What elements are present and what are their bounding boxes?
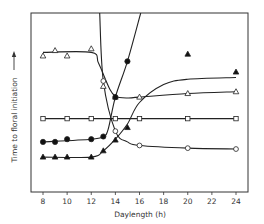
- open-circles-curve: [100, 13, 236, 149]
- open-circles-marker: [137, 143, 142, 148]
- open-triangles-marker: [233, 89, 239, 94]
- x-tick-label: 18: [159, 197, 169, 206]
- closed-circles-marker: [52, 139, 57, 144]
- x-axis-ticks: 81012141618202224: [41, 192, 241, 206]
- closed-triangles-marker: [52, 154, 58, 159]
- closed-circles-marker: [113, 95, 118, 100]
- y-axis-title: Time to floral initiation: [10, 77, 19, 163]
- x-tick-label: 24: [231, 197, 241, 206]
- open-circles-marker: [234, 147, 239, 152]
- open-circles-marker: [113, 129, 118, 134]
- open-triangles-marker: [64, 53, 70, 58]
- open-triangles-marker: [52, 48, 58, 53]
- closed-circles-marker: [89, 137, 94, 142]
- x-tick-label: 20: [183, 197, 193, 206]
- closed-circles-curve: [43, 13, 141, 142]
- open-squares-marker: [113, 116, 117, 120]
- x-tick-label: 8: [41, 197, 46, 206]
- closed-circles-marker: [101, 134, 106, 139]
- open-circles-marker: [185, 146, 190, 151]
- open-triangles-marker: [40, 53, 46, 58]
- open-triangles-marker: [88, 46, 94, 51]
- x-tick-label: 22: [207, 197, 217, 206]
- y-axis-title-group: Time to floral initiation: [10, 77, 19, 163]
- open-squares-marker: [41, 116, 45, 120]
- closed-circles-marker: [125, 59, 130, 64]
- closed-triangles-marker: [113, 137, 119, 142]
- series-curves: [43, 13, 236, 158]
- open-squares-marker: [234, 116, 238, 120]
- closed-triangles-marker: [185, 51, 191, 56]
- open-triangles-curve: [43, 52, 236, 98]
- x-tick-label: 12: [86, 197, 96, 206]
- x-tick-label: 16: [135, 197, 145, 206]
- chart: 81012141618202224 Daylength (h) Time to …: [0, 0, 264, 224]
- closed-circles-marker: [65, 137, 70, 142]
- open-squares-marker: [65, 116, 69, 120]
- closed-triangles-marker: [233, 69, 239, 74]
- x-axis-title: Daylength (h): [114, 210, 166, 219]
- x-tick-label: 14: [111, 197, 121, 206]
- x-tick-label: 10: [62, 197, 72, 206]
- open-circles-marker: [101, 79, 106, 84]
- open-squares-marker: [89, 116, 93, 120]
- y-axis-arrow-icon: [12, 51, 16, 70]
- closed-triangles-marker: [64, 154, 70, 159]
- open-squares-marker: [186, 116, 190, 120]
- open-triangles-marker: [101, 83, 107, 88]
- open-squares-marker: [137, 116, 141, 120]
- closed-circles-marker: [40, 139, 45, 144]
